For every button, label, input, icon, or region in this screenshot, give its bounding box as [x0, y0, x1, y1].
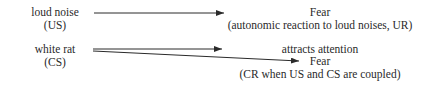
arrow-cs-to-cr — [93, 51, 299, 61]
arrows-layer — [0, 0, 430, 85]
